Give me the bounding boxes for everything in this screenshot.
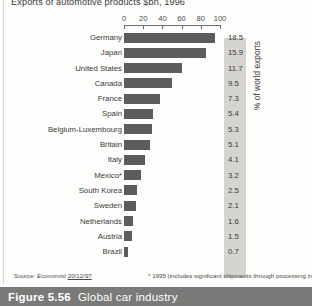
bar-row-label: Germany (90, 33, 122, 42)
x-axis-tick (143, 25, 144, 29)
bar-value-label: 0.7 (228, 247, 239, 256)
source-note: Source: Economist 20/12/97 (14, 272, 92, 279)
bar (124, 33, 215, 43)
bar-value-label: 4.1 (228, 155, 239, 164)
bar-value-label: 1.6 (228, 217, 239, 226)
x-axis-tick (182, 25, 183, 29)
bar (124, 155, 145, 165)
bar-row: Brazil0.7 (0, 245, 312, 260)
bar-value-label: 7.3 (228, 94, 239, 103)
source-publication: Economist (37, 272, 66, 279)
bar-value-label: 5.1 (228, 140, 239, 149)
bar-row: Italy4.1 (0, 153, 312, 168)
bar-row: Belgium-Luxembourg5.3 (0, 123, 312, 138)
bar-row-label: Brazil (103, 247, 123, 256)
bar-row-label: Netherlands (80, 217, 122, 226)
bar (124, 231, 132, 241)
footnote: * 1995 (includes significant shipments t… (148, 272, 312, 279)
x-axis-tick-label: 20 (139, 14, 147, 23)
bar-row-label: South Korea (79, 186, 122, 195)
bar-row: Netherlands1.6 (0, 215, 312, 230)
bar (124, 201, 136, 211)
bar-row-label: Britain (100, 140, 122, 149)
bar-value-label: 5.4 (228, 109, 239, 118)
bar (124, 140, 150, 150)
bar-value-label: 2.1 (228, 201, 239, 210)
bar-row: Mexico*3.2 (0, 169, 312, 184)
bar-value-label: 1.5 (228, 232, 239, 241)
x-axis-tick-label: 60 (177, 14, 185, 23)
bar-row: Canada9.5 (0, 77, 312, 92)
x-axis-tick (162, 25, 163, 29)
bar-value-label: 15.9 (228, 48, 243, 57)
bar-value-label: 11.7 (228, 64, 243, 73)
bar-row-label: Austria (98, 232, 122, 241)
bar-row: Britain5.1 (0, 138, 312, 153)
bar-row: Austria1.5 (0, 230, 312, 245)
chart-title: Exports of automotive products $bn, 1996 (11, 0, 185, 7)
x-axis-tick-label: 40 (158, 14, 166, 23)
bar-row-label: Belgium-Luxembourg (48, 125, 122, 134)
figure-caption-bar: Figure 5.56 Global car industry (0, 287, 312, 306)
bar-row-label: United States (75, 64, 122, 73)
bar-row-label: Canada (95, 79, 122, 88)
bar (124, 48, 206, 58)
bar-value-label: 2.5 (228, 186, 239, 195)
bar-row: South Korea2.5 (0, 184, 312, 199)
figure-caption-text: Global car industry (78, 291, 178, 303)
x-axis-tick (220, 25, 221, 29)
x-axis-tick-label: 80 (197, 14, 205, 23)
bar-value-label: 3.2 (228, 171, 239, 180)
bar (124, 109, 153, 119)
x-axis-tick (124, 25, 125, 29)
bar-row-label: Italy (108, 155, 122, 164)
bar-row: Sweden2.1 (0, 199, 312, 214)
x-axis-tick (201, 25, 202, 29)
bar (124, 63, 182, 73)
bar (124, 94, 160, 104)
figure-container: Exports of automotive products $bn, 1996… (0, 0, 312, 306)
bar (124, 247, 128, 257)
bar (124, 185, 137, 195)
y-axis-title: % of world exports (252, 41, 262, 110)
bar-value-label: 5.3 (228, 125, 239, 134)
bar (124, 170, 141, 180)
bar-row: Germany18.5 (0, 31, 312, 46)
x-axis-tick-label: 100 (214, 14, 227, 23)
bar-row-label: Sweden (94, 201, 122, 210)
source-date: 20/12/97 (68, 272, 92, 279)
bar-row: Japan15.9 (0, 46, 312, 61)
source-prefix: Source: (14, 272, 35, 279)
bar-rows: Germany18.5Japan15.9United States11.7Can… (0, 31, 312, 260)
bar-row: United States11.7 (0, 62, 312, 77)
bar-row: Spain5.4 (0, 107, 312, 122)
bar (124, 78, 172, 88)
x-axis-line (124, 25, 220, 26)
bar-value-label: 18.5 (228, 33, 243, 42)
bar-value-label: 9.5 (228, 79, 239, 88)
bar-row-label: Spain (102, 109, 122, 118)
bar-row-label: Mexico* (94, 171, 122, 180)
bar-row: France7.3 (0, 92, 312, 107)
bar-row-label: Japan (101, 48, 122, 57)
bar (124, 124, 152, 134)
x-axis-tick-label: 0 (122, 14, 126, 23)
plot-area: 020406080100 Germany18.5Japan15.9United … (0, 14, 312, 266)
figure-number: Figure 5.56 (8, 291, 71, 303)
bar (124, 216, 133, 226)
bar-row-label: France (98, 94, 122, 103)
